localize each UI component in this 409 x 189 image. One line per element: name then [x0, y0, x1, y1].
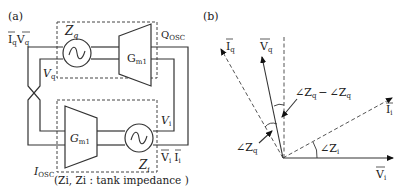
svg-text:Vq: Vq	[259, 40, 273, 54]
tank-impedance-caption: (Zi, Zi : tank impedance )	[54, 174, 189, 186]
svg-text:Ii: Ii	[386, 103, 393, 117]
angle-arc-zi	[313, 142, 317, 158]
panel-b-label: (b)	[203, 10, 219, 23]
panel-a-label: (a)	[8, 10, 23, 23]
angle-zq-label: ∠Zq	[236, 141, 258, 155]
svg-text:ViIi: ViIi	[160, 151, 182, 165]
zq-label: Zq	[64, 24, 78, 40]
vi-vector-label: Vi	[375, 167, 387, 182]
vq-vector-label: Vq	[259, 39, 273, 54]
vq-label: Vq	[43, 67, 56, 81]
panel-b-phasor-diagram: (b) Iq Vq Ii Vi	[203, 10, 393, 182]
svg-text:Vi: Vi	[375, 168, 387, 182]
svg-text:IqVq: IqVq	[8, 33, 30, 47]
pointer-arrow-zq	[259, 131, 272, 143]
vi-label: Vi	[161, 114, 172, 128]
angle-diff-label: ∠Zq−∠Zq	[295, 86, 351, 100]
panel-a-circuit: (a) Zq Gm1 Gm1 Zi	[8, 10, 189, 186]
angle-zi-label: ∠Zi	[320, 142, 340, 156]
figure: (a) Zq Gm1 Gm1 Zi	[0, 0, 409, 189]
angle-arc-zq	[265, 123, 277, 127]
pointer-arrow-diff	[282, 99, 297, 117]
vi-ii-label: ViIi	[160, 150, 182, 165]
iq-vector-label: Iq	[226, 39, 235, 54]
ii-vector-label: Ii	[386, 103, 393, 117]
iosc-label: IOSC	[33, 165, 54, 179]
angle-arc-diff	[274, 104, 284, 106]
svg-text:Iq: Iq	[226, 40, 235, 54]
iq-vq-label: IqVq	[8, 32, 30, 47]
zi-label: Zi	[138, 158, 150, 174]
qosc-label: QOSC	[161, 29, 185, 42]
vq-vector	[262, 57, 283, 158]
